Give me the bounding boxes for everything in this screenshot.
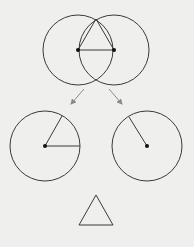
radius-angled-right — [129, 117, 147, 146]
bottom-right-center — [145, 144, 149, 148]
radius-angled — [45, 116, 62, 146]
arrow-left — [71, 89, 84, 104]
bottom-left-center — [43, 144, 47, 148]
center-point-left — [76, 48, 80, 52]
center-point-right — [112, 48, 116, 52]
arrow-right — [109, 89, 122, 104]
top-construction — [43, 15, 149, 85]
equilateral-triangle-construction-diagram — [0, 0, 194, 247]
result-triangle — [79, 195, 113, 225]
inscribed-triangle — [78, 19, 114, 50]
